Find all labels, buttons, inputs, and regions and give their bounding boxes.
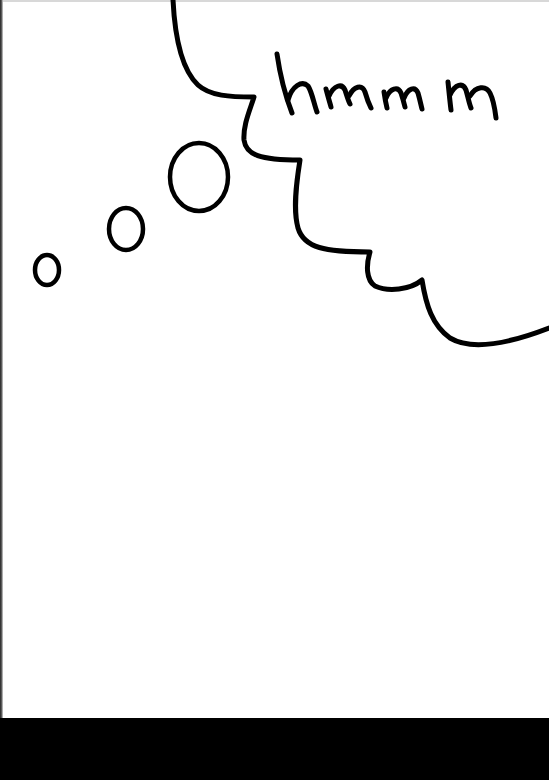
thought-bubble-medium: [109, 208, 143, 250]
paper-sheet: hmmm: [0, 0, 549, 718]
bottom-black-band: [0, 718, 549, 780]
thought-bubble-large: [170, 143, 228, 211]
thought-cloud-drawing: [0, 0, 549, 718]
thought-bubble-small: [35, 255, 59, 285]
handwritten-hmmm: [277, 54, 496, 118]
